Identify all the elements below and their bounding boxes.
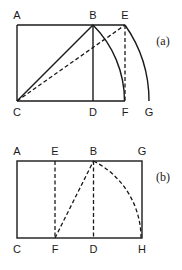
figure-a: A B E C D F G (a) xyxy=(13,9,170,118)
label-G: G xyxy=(145,106,154,118)
caption-b: (b) xyxy=(156,170,170,184)
label-B: B xyxy=(89,9,96,21)
label-F: F xyxy=(52,243,59,255)
label-A: A xyxy=(13,145,21,157)
line-FB-dashed xyxy=(55,161,94,238)
label-C: C xyxy=(13,106,21,118)
arc-EG xyxy=(125,25,149,101)
rect-AGHC xyxy=(17,161,142,238)
caption-a: (a) xyxy=(156,34,169,48)
label-E: E xyxy=(121,9,128,21)
label-A: A xyxy=(13,9,21,21)
line-CE-dashed xyxy=(17,25,125,101)
label-D: D xyxy=(89,106,97,118)
label-H: H xyxy=(138,243,146,255)
arc-BH-dashed xyxy=(94,161,142,238)
label-C: C xyxy=(13,243,21,255)
label-D: D xyxy=(90,243,98,255)
label-G: G xyxy=(138,145,147,157)
golden-ratio-diagrams: A B E C D F G (a) A E B G C F D H (b) xyxy=(0,0,182,270)
line-CB xyxy=(17,25,93,101)
label-B: B xyxy=(90,145,97,157)
label-E: E xyxy=(51,145,58,157)
figure-b: A E B G C F D H (b) xyxy=(13,145,170,255)
label-F: F xyxy=(122,106,129,118)
